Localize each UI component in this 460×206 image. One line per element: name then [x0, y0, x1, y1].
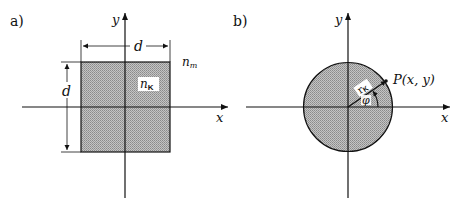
point-label: P(x, y)	[392, 72, 435, 87]
cladding-index-label: nm	[182, 55, 198, 70]
panel-a: a) y x d d nK nm	[10, 12, 228, 198]
point-p	[384, 79, 388, 83]
panel-b: b) y x KrK φ P(x, y)	[233, 12, 450, 198]
diagram-canvas: a) y x d d nK nm b) y x	[0, 0, 460, 206]
width-dimension-label: d	[134, 38, 143, 54]
height-dimension-label: d	[62, 83, 71, 99]
panel-b-label: b)	[233, 13, 247, 29]
y-axis-label: y	[334, 12, 343, 27]
y-axis-label: y	[111, 12, 120, 27]
panel-a-label: a)	[10, 13, 24, 29]
angle-label: φ	[362, 94, 370, 107]
x-axis-label: x	[441, 110, 449, 125]
x-axis-label: x	[216, 110, 224, 125]
